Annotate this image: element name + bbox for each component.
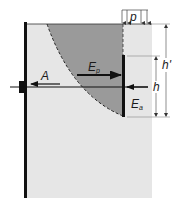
dimension-h-label: h — [153, 80, 160, 94]
dimension-h-prime-label: h' — [162, 58, 172, 72]
surcharge-load: p — [122, 10, 148, 24]
dimension-h-prime: h' — [152, 24, 172, 117]
surcharge-label: p — [129, 10, 137, 24]
anchor-plate — [122, 55, 125, 117]
sheet-pile-wall — [24, 22, 27, 198]
diagram-canvas: p A Ep Ea h h' — [0, 0, 181, 202]
anchor-force-label: A — [40, 69, 49, 83]
